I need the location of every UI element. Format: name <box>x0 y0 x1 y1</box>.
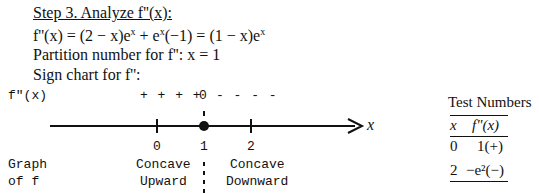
partition-point <box>199 121 209 131</box>
axis-variable-label: x <box>367 116 374 134</box>
positive-signs: + + + + <box>140 88 202 103</box>
partition-number-text: Partition number for f'': x = 1 <box>33 46 220 64</box>
partition-dash <box>203 171 205 175</box>
tick-label-2: 2 <box>247 139 255 154</box>
tick-label-0: 0 <box>153 139 161 154</box>
second-derivative-formula: f''(x) = (2 − x)ex + ex(−1) = (1 − x)ex <box>33 27 265 45</box>
partition-dash <box>203 111 205 116</box>
partition-dash <box>203 189 205 193</box>
step-heading: Step 3. Analyze f''(x): <box>33 4 172 22</box>
formula-part: f''(x) = (2 − x)e <box>33 27 131 44</box>
table-row-x: 0 <box>450 138 458 155</box>
table-bottom-rule <box>450 181 508 182</box>
table-header-f2: f"(x) <box>472 117 499 134</box>
test-numbers-title: Test Numbers <box>448 94 532 111</box>
table-row-x: 2 <box>450 162 458 179</box>
table-row-value: 1(+) <box>477 138 503 155</box>
table-top-rule <box>450 115 508 116</box>
table-header-x: x <box>450 117 457 134</box>
arrow-head-icon <box>346 117 366 135</box>
sign-row-label: f"(x) <box>8 88 47 103</box>
table-row-value: −e²(−) <box>466 162 504 179</box>
negative-signs: - - - - <box>216 88 278 103</box>
left-region-label-line1: Concave <box>136 157 191 172</box>
graph-label-line1: Graph <box>8 157 47 172</box>
tick-0 <box>156 119 158 133</box>
partition-dash <box>203 180 205 184</box>
left-region-label-line2: Upward <box>140 174 187 189</box>
exponent: x <box>260 26 265 37</box>
right-region-label-line2: Downward <box>226 174 288 189</box>
zero-marker: 0 <box>199 88 207 103</box>
formula-part: + e <box>136 27 160 44</box>
partition-dash <box>203 162 205 166</box>
formula-part: (−1) = (1 − x)e <box>165 27 260 44</box>
tick-label-1: 1 <box>200 139 208 154</box>
table-header-rule <box>450 136 508 137</box>
right-region-label-line1: Concave <box>230 157 285 172</box>
tick-2 <box>250 119 252 133</box>
graph-label-line2: of f <box>8 174 39 189</box>
sign-chart-title: Sign chart for f'': <box>33 66 141 84</box>
